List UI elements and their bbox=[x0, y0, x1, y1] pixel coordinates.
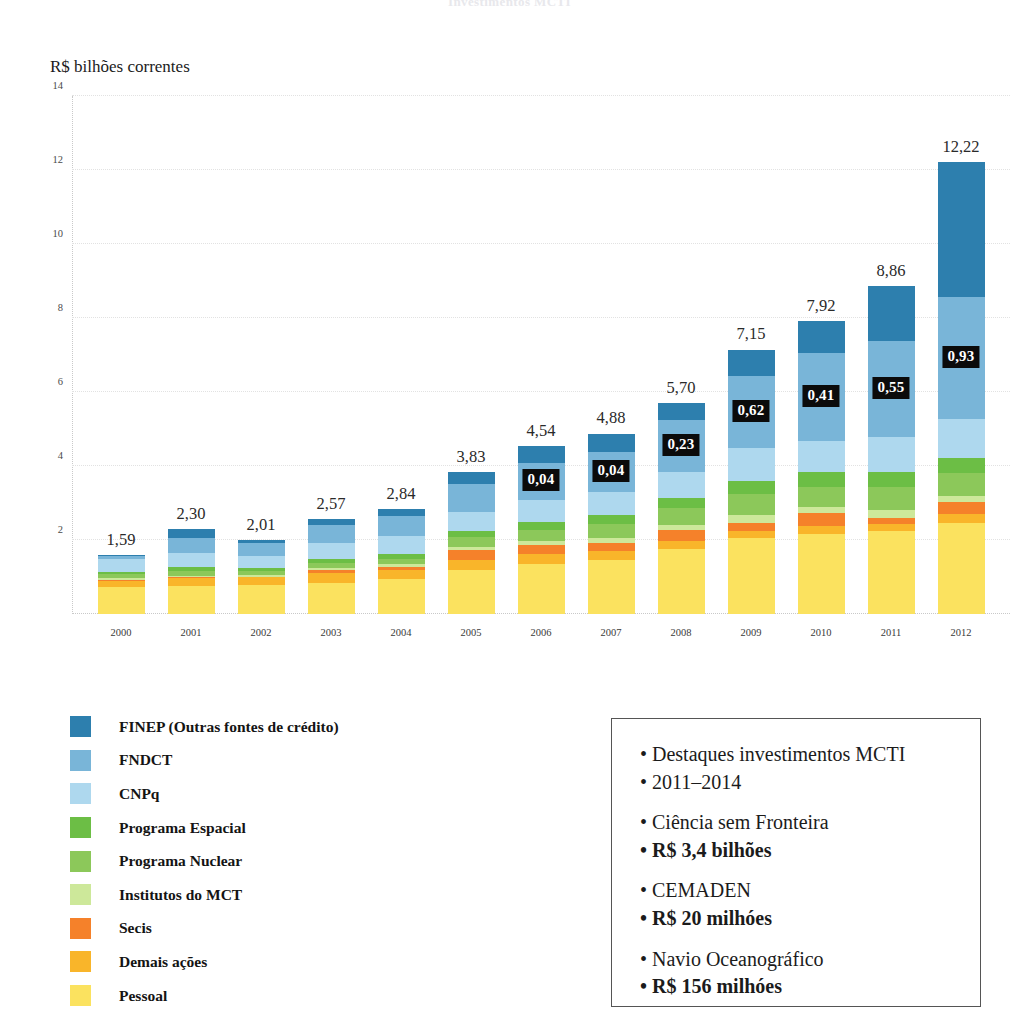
bar-segment bbox=[728, 494, 775, 515]
legend-item[interactable]: Institutos do MCT bbox=[70, 878, 490, 912]
x-axis-tick-label: 2009 bbox=[741, 627, 762, 638]
highlight-spacer bbox=[640, 933, 980, 946]
bar-segment bbox=[868, 286, 915, 340]
bar-total-label: 4,54 bbox=[527, 421, 556, 441]
legend-swatch-icon bbox=[70, 783, 91, 804]
legend-swatch-icon bbox=[70, 951, 91, 972]
bar-value-annotation: 0,41 bbox=[802, 385, 839, 407]
legend-item-label: Institutos do MCT bbox=[119, 886, 242, 904]
bar-value-annotation: 0,55 bbox=[872, 377, 909, 399]
bar-group[interactable]: 2,842004 bbox=[378, 509, 425, 614]
legend-item[interactable]: Demais ações bbox=[70, 945, 490, 979]
highlight-line: • Ciência sem Fronteira bbox=[640, 809, 980, 837]
bar-group[interactable]: 3,832005 bbox=[448, 472, 495, 614]
legend-item-label: CNPq bbox=[119, 785, 159, 803]
bar-segment bbox=[728, 350, 775, 377]
x-axis-tick-label: 2006 bbox=[531, 627, 552, 638]
bar-total-label: 3,83 bbox=[457, 447, 486, 467]
plot-area: 2468101214 1,5920002,3020012,0120022,572… bbox=[72, 96, 1010, 614]
legend-item[interactable]: CNPq bbox=[70, 777, 490, 811]
bar-segment bbox=[728, 515, 775, 523]
x-axis-tick-label: 2002 bbox=[251, 627, 272, 638]
bar-segment bbox=[588, 492, 635, 515]
bar-segment bbox=[938, 473, 985, 495]
legend-item-label: Programa Nuclear bbox=[119, 852, 242, 870]
highlight-line: • 2011–2014 bbox=[640, 769, 980, 797]
bar-total-label: 2,30 bbox=[177, 504, 206, 524]
bar-group[interactable]: 8,860,552011 bbox=[868, 286, 915, 614]
bar-segment bbox=[728, 448, 775, 481]
legend-item[interactable]: FNDCT bbox=[70, 744, 490, 778]
bar-group[interactable]: 1,592000 bbox=[98, 555, 145, 614]
legend-item[interactable]: Secis bbox=[70, 912, 490, 946]
bar-stack bbox=[98, 555, 145, 614]
bar-segment bbox=[448, 560, 495, 570]
bar-segment bbox=[868, 437, 915, 472]
legend-item[interactable]: Pessoal bbox=[70, 979, 490, 1013]
bar-segment bbox=[728, 538, 775, 614]
bar-segment bbox=[98, 581, 145, 588]
bar-group[interactable]: 7,920,412010 bbox=[798, 321, 845, 614]
legend-swatch-icon bbox=[70, 817, 91, 838]
highlights-list: • Destaques investimentos MCTI• 2011–201… bbox=[612, 719, 980, 1001]
bar-segment bbox=[658, 498, 705, 509]
bar-segment bbox=[448, 512, 495, 531]
x-axis-tick-label: 2001 bbox=[181, 627, 202, 638]
bar-segment bbox=[588, 560, 635, 614]
highlight-line: • CEMADEN bbox=[640, 877, 980, 905]
bar-segment bbox=[658, 472, 705, 498]
bar-total-label: 12,22 bbox=[942, 137, 979, 157]
bar-segment bbox=[938, 496, 985, 503]
bar-segment bbox=[728, 523, 775, 531]
bar-segment bbox=[868, 472, 915, 487]
legend-swatch-icon bbox=[70, 985, 91, 1006]
bar-stack bbox=[728, 349, 775, 614]
bar-segment bbox=[378, 536, 425, 554]
bar-segment bbox=[868, 531, 915, 614]
bar-group[interactable]: 2,012002 bbox=[238, 540, 285, 614]
highlight-line: • R$ 156 milhóes bbox=[640, 973, 980, 1001]
bar-group[interactable]: 4,880,042007 bbox=[588, 433, 635, 614]
legend-item[interactable]: FINEP (Outras fontes de crédito) bbox=[70, 710, 490, 744]
x-axis-tick-label: 2008 bbox=[671, 627, 692, 638]
bar-total-label: 2,57 bbox=[317, 494, 346, 514]
bar-segment bbox=[378, 516, 425, 537]
bar-group[interactable]: 2,302001 bbox=[168, 529, 215, 614]
bar-segment bbox=[798, 526, 845, 535]
bar-segment bbox=[938, 514, 985, 523]
legend-item[interactable]: Programa Espacial bbox=[70, 811, 490, 845]
bar-segment bbox=[448, 537, 495, 547]
bar-segment bbox=[308, 543, 355, 559]
bar-segment bbox=[518, 530, 565, 541]
bar-total-label: 7,92 bbox=[807, 296, 836, 316]
bar-group[interactable]: 12,220,932012 bbox=[938, 162, 985, 614]
bar-segment bbox=[518, 564, 565, 614]
bar-segment bbox=[658, 508, 705, 525]
bar-segment bbox=[658, 403, 705, 420]
legend-swatch-icon bbox=[70, 918, 91, 939]
bar-segment bbox=[168, 538, 215, 553]
bar-segment bbox=[658, 549, 705, 614]
legend-item[interactable]: Programa Nuclear bbox=[70, 844, 490, 878]
bar-stack bbox=[378, 509, 425, 614]
bar-group[interactable]: 4,540,042006 bbox=[518, 446, 565, 614]
bar-segment bbox=[518, 500, 565, 522]
legend-item-label: Demais ações bbox=[119, 953, 207, 971]
x-axis-tick-label: 2005 bbox=[461, 627, 482, 638]
bar-total-label: 4,88 bbox=[597, 408, 626, 428]
x-axis-tick-label: 2007 bbox=[601, 627, 622, 638]
bar-segment bbox=[448, 484, 495, 512]
x-axis-tick-label: 2010 bbox=[811, 627, 832, 638]
highlight-line: • R$ 3,4 bilhões bbox=[640, 837, 980, 865]
bar-total-label: 2,84 bbox=[387, 484, 416, 504]
bar-segment bbox=[518, 545, 565, 554]
bar-group[interactable]: 5,700,232008 bbox=[658, 403, 705, 614]
chart-legend: FINEP (Outras fontes de crédito)FNDCTCNP… bbox=[70, 710, 490, 1012]
chart-page: Investimentos MCTI R$ bilhões correntes … bbox=[0, 0, 1019, 1034]
bar-group[interactable]: 2,572003 bbox=[308, 519, 355, 614]
bar-segment bbox=[938, 523, 985, 614]
bar-group[interactable]: 7,150,622009 bbox=[728, 349, 775, 614]
bar-series-container: 1,5920002,3020012,0120022,5720032,842004… bbox=[72, 96, 1010, 614]
bar-value-annotation: 0,93 bbox=[942, 346, 979, 368]
bar-total-label: 5,70 bbox=[667, 378, 696, 398]
